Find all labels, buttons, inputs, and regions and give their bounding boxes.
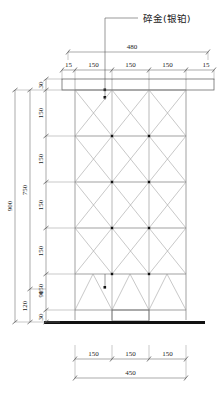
left-inner-seg-3: 150 [37, 199, 45, 210]
top-seg-4-value: 15 [203, 61, 211, 69]
material-leader [105, 18, 138, 100]
brace-row-1 [75, 90, 186, 136]
joint-node [111, 135, 113, 137]
joint-node [148, 227, 150, 229]
brace-row-2 [75, 136, 186, 182]
bottom-seg-0-value: 150 [88, 350, 99, 358]
joint-node [148, 273, 150, 275]
bottom-seg-2-value: 150 [162, 350, 173, 358]
joint-node [148, 181, 150, 183]
left-outer-total: 900 [6, 200, 14, 211]
joint-node [148, 135, 150, 137]
left-inner-seg-4: 150 [37, 245, 45, 256]
left-inner-dimension [44, 77, 76, 324]
left-inner-seg-2: 150 [37, 153, 45, 164]
top-seg-1-value: 150 [88, 61, 99, 69]
footing-box [112, 310, 149, 321]
lower-anchor-node [104, 286, 107, 289]
truss-panel [75, 90, 186, 320]
base-assembly [44, 310, 205, 323]
left-middle-seg-1: 120 [21, 300, 29, 311]
left-inner-seg-7: 30 [37, 313, 45, 321]
brace-row-5 [75, 274, 186, 310]
bottom-seg-1-value: 150 [125, 350, 136, 358]
top-seg-0-value: 15 [65, 61, 73, 69]
top-seg-3-value: 150 [162, 61, 173, 69]
joint-node [111, 227, 113, 229]
joint-node [111, 273, 113, 275]
brace-row-4 [75, 228, 186, 274]
left-outer-dimension [13, 88, 31, 324]
material-label: 碎金(银铂) [143, 13, 190, 24]
top-total-value: 480 [127, 43, 138, 51]
left-inner-seg-0: 30 [37, 81, 45, 89]
top-seg-2-value: 150 [125, 61, 136, 69]
joint-node [111, 181, 113, 183]
header-beam [62, 79, 214, 90]
brace-row-3 [75, 182, 186, 228]
technical-drawing-canvas: 碎金(银铂) 480 15 150 150 150 15 [0, 0, 221, 393]
left-middle-seg-0: 750 [21, 184, 29, 195]
left-inner-seg-1: 150 [37, 107, 45, 118]
left-inner-seg-6: 90 [37, 290, 45, 298]
top-total-dimension [66, 50, 210, 61]
top-segment-dimension-line [60, 68, 216, 81]
bottom-total-value: 450 [125, 369, 136, 377]
